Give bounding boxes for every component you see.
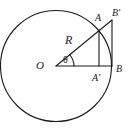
- label-center-O: O: [36, 60, 44, 71]
- geometry-canvas: [0, 0, 129, 130]
- label-angle-theta: θ: [63, 55, 68, 65]
- label-point-B: B: [116, 64, 122, 74]
- label-point-B-prime: B′: [112, 8, 120, 18]
- label-point-A-prime: A′: [92, 73, 100, 83]
- geometry-figure: O R θ A B′ A′ B: [0, 0, 129, 130]
- angle-arc-theta: [70, 55, 75, 67]
- label-point-A: A: [95, 13, 101, 23]
- label-radius-R: R: [65, 34, 72, 46]
